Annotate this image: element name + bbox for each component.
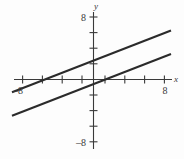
x-max-tick-label: 8 [163, 85, 168, 96]
y-min-tick-label: –8 [75, 137, 86, 148]
x-min-tick-label: –8 [12, 85, 23, 96]
x-axis-name-label: x [173, 74, 178, 84]
coordinate-plane-svg: –8 8 8 –8 x y [0, 0, 184, 159]
line-series-lower [12, 54, 171, 116]
line-series-upper [12, 31, 171, 93]
y-max-tick-label: 8 [81, 12, 86, 23]
y-axis-name-label: y [93, 1, 98, 11]
graph-figure: –8 8 8 –8 x y [0, 0, 184, 159]
